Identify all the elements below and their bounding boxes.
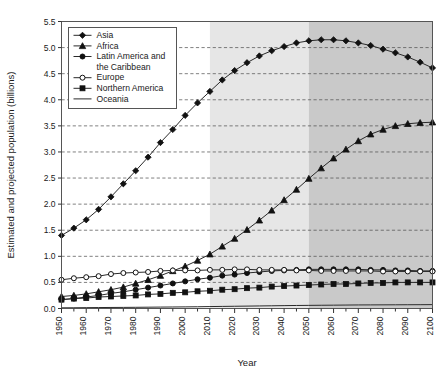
- data-point: [245, 267, 250, 272]
- data-point: [183, 279, 188, 284]
- data-point: [195, 289, 200, 294]
- y-tick-label: 2.0: [44, 199, 56, 209]
- data-point: [133, 287, 138, 292]
- x-tick-label: 2080: [375, 316, 385, 335]
- data-point: [207, 267, 212, 272]
- plot-area-wrapper: 0.00.51.01.52.02.53.03.54.04.55.05.51950…: [0, 0, 443, 376]
- y-tick-label: 3.0: [44, 147, 56, 157]
- data-point: [146, 285, 151, 290]
- y-tick-label: 5.0: [44, 43, 56, 53]
- legend-label: Africa: [97, 41, 119, 51]
- data-point: [220, 287, 225, 292]
- data-point: [96, 274, 101, 279]
- x-tick-label: 1960: [78, 316, 88, 335]
- data-point: [393, 269, 398, 274]
- x-tick-label: 2010: [202, 316, 212, 335]
- long-range-projection-band: [309, 22, 433, 309]
- y-tick-label: 4.5: [44, 69, 56, 79]
- x-tick-label: 2060: [326, 316, 336, 335]
- estimate-projection-band: [210, 22, 309, 309]
- legend-label: the Caribbean: [97, 62, 151, 72]
- data-point: [294, 268, 299, 273]
- data-point: [71, 276, 76, 281]
- x-tick-label: 1970: [103, 316, 113, 335]
- data-point: [207, 288, 212, 293]
- data-point: [133, 270, 138, 275]
- data-point: [146, 292, 151, 297]
- y-tick-label: 1.5: [44, 225, 56, 235]
- x-tick-label: 1950: [54, 316, 64, 335]
- data-point: [405, 269, 410, 274]
- data-point: [393, 280, 398, 285]
- data-point: [146, 269, 151, 274]
- legend-label: Northern America: [97, 83, 164, 93]
- data-point: [405, 280, 410, 285]
- population-projection-chart: 0.00.51.01.52.02.53.03.54.04.55.05.51950…: [0, 0, 443, 376]
- data-point: [121, 271, 126, 276]
- data-point: [418, 269, 423, 274]
- data-point: [170, 268, 175, 273]
- x-tick-label: 2090: [400, 316, 410, 335]
- x-tick-label: 2070: [350, 316, 360, 335]
- data-point: [368, 280, 373, 285]
- x-tick-label: 2040: [276, 316, 286, 335]
- data-point: [319, 282, 324, 287]
- x-tick-label: 2000: [177, 316, 187, 335]
- data-point: [232, 272, 237, 277]
- y-tick-label: 3.5: [44, 121, 56, 131]
- legend-marker: [80, 54, 85, 59]
- data-point: [220, 267, 225, 272]
- chart-svg: 0.00.51.01.52.02.53.03.54.04.55.05.51950…: [0, 0, 443, 376]
- data-point: [257, 267, 262, 272]
- y-tick-label: 4.0: [44, 95, 56, 105]
- data-point: [356, 268, 361, 273]
- legend-label: Asia: [97, 30, 114, 40]
- data-point: [232, 267, 237, 272]
- data-point: [84, 275, 89, 280]
- x-tick-label: 1980: [128, 316, 138, 335]
- data-point: [319, 268, 324, 273]
- data-point: [170, 290, 175, 295]
- data-point: [381, 269, 386, 274]
- legend-label: Oceania: [97, 94, 129, 104]
- data-point: [71, 225, 77, 231]
- data-point: [170, 281, 175, 286]
- legend-label: Latin America and: [97, 51, 166, 61]
- data-point: [232, 287, 237, 292]
- data-point: [84, 296, 89, 301]
- data-point: [282, 267, 287, 272]
- data-point: [133, 293, 138, 298]
- data-point: [207, 275, 212, 280]
- y-tick-label: 2.5: [44, 173, 56, 183]
- y-axis-title: Estimated and projected population (bill…: [5, 72, 16, 259]
- chart-legend: AsiaAfricaLatin America andthe Caribbean…: [69, 28, 177, 109]
- legend-label: Europe: [97, 72, 125, 82]
- x-tick-label: 1990: [152, 316, 162, 335]
- legend-marker: [80, 75, 85, 80]
- x-tick-label: 2100: [425, 316, 435, 335]
- y-tick-label: 0.5: [44, 277, 56, 287]
- data-point: [368, 268, 373, 273]
- data-point: [331, 268, 336, 273]
- data-point: [121, 293, 126, 298]
- data-point: [194, 257, 200, 263]
- y-tick-label: 1.0: [44, 251, 56, 261]
- data-point: [331, 281, 336, 286]
- data-point: [343, 268, 348, 273]
- data-point: [183, 268, 188, 273]
- legend-entry: the Caribbean: [97, 62, 151, 72]
- data-point: [294, 283, 299, 288]
- data-point: [158, 291, 163, 296]
- data-point: [108, 272, 113, 277]
- data-point: [108, 294, 113, 299]
- data-point: [282, 284, 287, 289]
- data-point: [306, 268, 311, 273]
- data-point: [158, 283, 163, 288]
- y-tick-label: 5.5: [44, 17, 56, 27]
- data-point: [418, 280, 423, 285]
- y-tick-label: 0.0: [44, 304, 56, 314]
- data-point: [343, 281, 348, 286]
- data-point: [96, 295, 101, 300]
- data-point: [183, 290, 188, 295]
- legend-marker: [80, 86, 85, 91]
